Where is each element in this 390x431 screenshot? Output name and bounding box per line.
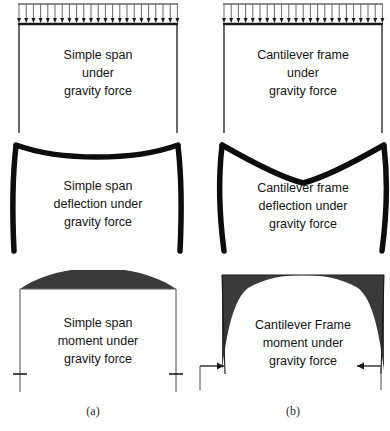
svg-text:gravity force: gravity force <box>64 84 132 98</box>
panel-label: Cantilever frame under gravity force <box>257 48 349 98</box>
structural-comparison-figure: Simple span under gravity force <box>0 0 390 431</box>
parabolic-moment-icon <box>20 270 176 289</box>
svg-text:Simple span: Simple span <box>64 316 133 330</box>
svg-text:gravity force: gravity force <box>64 352 132 366</box>
panel-label: Simple span moment under gravity force <box>58 316 139 366</box>
svg-text:Simple span: Simple span <box>64 179 133 193</box>
panel-cantilever-frame-load: Cantilever frame under gravity force <box>195 0 390 135</box>
caption-a: (a) <box>73 404 113 419</box>
panel-label: Simple span under gravity force <box>64 48 133 98</box>
distributed-load-icon <box>17 4 179 23</box>
svg-text:Cantilever frame: Cantilever frame <box>257 181 349 195</box>
svg-text:Simple span: Simple span <box>64 48 133 62</box>
svg-text:moment under: moment under <box>263 336 344 350</box>
panel-label: Cantilever Frame moment under gravity fo… <box>255 318 351 368</box>
svg-text:deflection under: deflection under <box>259 199 348 213</box>
svg-text:gravity force: gravity force <box>269 354 337 368</box>
panel-simple-span-moment: Simple span moment under gravity force <box>0 270 195 404</box>
panel-simple-span-load: Simple span under gravity force <box>0 0 195 135</box>
svg-text:moment under: moment under <box>58 334 139 348</box>
svg-text:deflection under: deflection under <box>54 197 143 211</box>
distributed-load-icon <box>222 4 384 23</box>
svg-text:Cantilever Frame: Cantilever Frame <box>255 318 351 332</box>
caption-b: (b) <box>273 404 313 419</box>
svg-text:under: under <box>82 66 114 80</box>
panel-cantilever-frame-deflection: Cantilever frame deflection under gravit… <box>195 135 390 270</box>
caption-row: (a) (b) <box>0 404 390 431</box>
svg-text:under: under <box>287 66 319 80</box>
svg-text:gravity force: gravity force <box>64 215 132 229</box>
panel-label: Cantilever frame deflection under gravit… <box>257 181 349 231</box>
panel-label: Simple span deflection under gravity for… <box>54 179 143 229</box>
v-sag-beam-icon <box>220 145 387 251</box>
svg-text:Cantilever frame: Cantilever frame <box>257 48 349 62</box>
svg-text:gravity force: gravity force <box>269 217 337 231</box>
panel-cantilever-frame-moment: Cantilever Frame moment under gravity fo… <box>195 270 390 404</box>
svg-text:gravity force: gravity force <box>269 84 337 98</box>
panel-simple-span-deflection: Simple span deflection under gravity for… <box>0 135 195 270</box>
